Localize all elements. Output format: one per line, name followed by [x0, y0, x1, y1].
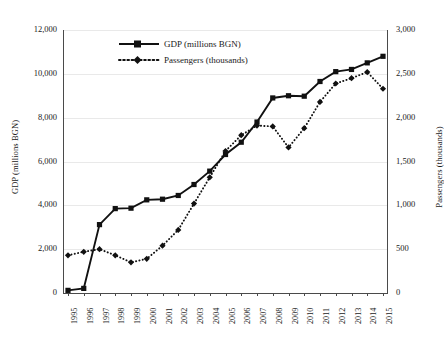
data-point-marker — [81, 286, 86, 291]
legend-label-passengers: Passengers (thousands) — [164, 55, 248, 65]
x-axis-tickmark — [131, 293, 132, 296]
data-point-marker — [380, 54, 385, 59]
data-point-marker — [301, 125, 307, 131]
data-point-marker — [270, 95, 275, 100]
x-axis-tickmark — [336, 293, 337, 296]
data-point-marker — [317, 99, 323, 105]
left-axis-tick: 2,000 — [17, 244, 57, 253]
data-point-marker — [96, 246, 102, 252]
data-point-marker — [349, 67, 354, 72]
data-point-marker — [160, 197, 165, 202]
x-axis-tick: 2010 — [307, 308, 315, 324]
x-axis-tick: 2014 — [370, 308, 378, 324]
x-axis-tick: 2003 — [197, 308, 205, 324]
data-point-marker — [176, 193, 181, 198]
x-axis-tickmark — [163, 293, 164, 296]
data-point-marker — [380, 86, 386, 92]
data-point-marker — [365, 60, 370, 65]
data-point-marker — [270, 123, 276, 129]
x-axis-tick: 2000 — [150, 308, 158, 324]
x-axis-tick: 2015 — [386, 308, 394, 324]
legend-item-gdp: GDP (millions BGN) — [118, 39, 241, 49]
data-point-marker — [239, 140, 244, 145]
right-axis-tick: 500 — [396, 244, 436, 253]
data-point-marker — [317, 79, 322, 84]
x-axis-tick: 1997 — [103, 308, 111, 324]
x-axis-tick: 2012 — [339, 308, 347, 324]
left-axis-tick: 4,000 — [17, 200, 57, 209]
x-axis-tick: 1998 — [118, 308, 126, 324]
x-axis-tickmark — [352, 293, 353, 296]
data-point-marker — [97, 222, 102, 227]
x-axis-tickmark — [289, 293, 290, 296]
x-axis-tickmark — [100, 293, 101, 296]
x-axis-tickmark — [178, 293, 179, 296]
x-axis-tick: 1996 — [87, 308, 95, 324]
data-point-marker — [238, 132, 244, 138]
x-axis-tickmark — [210, 293, 211, 296]
x-axis-tickmark — [147, 293, 148, 296]
data-point-marker — [144, 197, 149, 202]
x-axis-tickmark — [226, 293, 227, 296]
data-point-marker — [128, 206, 133, 211]
x-axis-tick: 2008 — [276, 308, 284, 324]
x-axis-tick: 2013 — [355, 308, 363, 324]
x-axis-tickmark — [383, 293, 384, 296]
data-point-marker — [302, 94, 307, 99]
x-axis-tick: 2001 — [166, 308, 174, 324]
x-axis-tick: 2007 — [260, 308, 268, 324]
data-point-marker — [113, 206, 118, 211]
data-point-marker — [191, 182, 196, 187]
dual-axis-line-chart: GDP (millions BGN) Passengers (thousands… — [0, 0, 444, 342]
x-axis-tickmark — [68, 293, 69, 296]
left-axis-tick: 12,000 — [17, 25, 57, 34]
left-axis-tick: 0 — [17, 288, 57, 297]
right-axis-tick: 0 — [396, 288, 436, 297]
series-layer — [63, 30, 388, 293]
x-axis-tickmark — [84, 293, 85, 296]
plot-area — [63, 30, 388, 293]
left-axis-line — [63, 30, 64, 293]
data-point-marker — [286, 93, 291, 98]
x-axis-tick: 2002 — [181, 308, 189, 324]
right-axis-line — [387, 30, 388, 293]
right-axis-tick: 2,000 — [396, 113, 436, 122]
x-axis-tick: 2011 — [323, 308, 331, 324]
x-axis-tick: 2004 — [213, 308, 221, 324]
x-axis-tickmark — [115, 293, 116, 296]
data-point-marker — [348, 75, 354, 81]
x-axis-tickmark — [367, 293, 368, 296]
x-axis-tick: 2005 — [229, 308, 237, 324]
legend-label-gdp: GDP (millions BGN) — [164, 39, 241, 49]
right-axis-tick: 2,500 — [396, 69, 436, 78]
data-point-marker — [81, 249, 87, 255]
data-point-marker — [333, 69, 338, 74]
x-axis-tickmark — [257, 293, 258, 296]
left-axis-tick: 10,000 — [17, 69, 57, 78]
x-axis-tickmark — [194, 293, 195, 296]
x-axis-tickmark — [273, 293, 274, 296]
x-axis-tickmark — [304, 293, 305, 296]
data-point-marker — [364, 69, 370, 75]
x-axis-tick: 1999 — [134, 308, 142, 324]
x-axis-tick: 2006 — [244, 308, 252, 324]
x-axis-tick: 1995 — [71, 308, 79, 324]
legend-marker-passengers-icon — [118, 55, 160, 65]
legend-item-passengers: Passengers (thousands) — [118, 55, 248, 65]
left-axis-tick: 8,000 — [17, 113, 57, 122]
right-axis-tick: 1,000 — [396, 200, 436, 209]
x-axis-tickmark — [320, 293, 321, 296]
left-axis-tick: 6,000 — [17, 157, 57, 166]
right-axis-tick: 3,000 — [396, 25, 436, 34]
data-point-marker — [112, 252, 118, 258]
legend-marker-gdp-icon — [118, 39, 160, 49]
x-axis-tick: 2009 — [292, 308, 300, 324]
x-axis-tickmark — [241, 293, 242, 296]
series-line-passengers — [68, 72, 383, 262]
data-point-marker — [65, 252, 71, 258]
data-point-marker — [128, 259, 134, 265]
right-axis-tick: 1,500 — [396, 157, 436, 166]
